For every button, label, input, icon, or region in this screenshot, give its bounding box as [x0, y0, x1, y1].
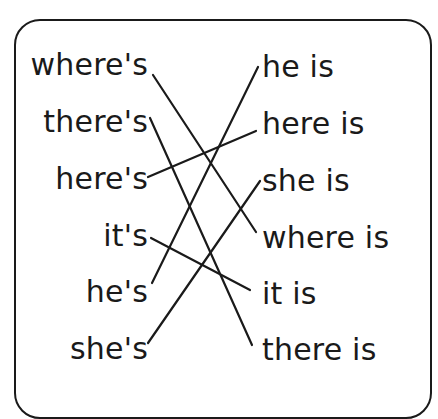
right-word-there-is: there is	[262, 333, 376, 367]
line-here-s	[148, 131, 256, 177]
right-word-he-is: he is	[262, 50, 334, 84]
line-there-s	[150, 118, 252, 345]
right-word-she-is: she is	[262, 164, 350, 198]
left-word-here-s: here's	[55, 162, 148, 196]
line-it-s	[151, 238, 250, 290]
left-word-it-s: it's	[103, 219, 148, 253]
left-word-there-s: there's	[43, 105, 148, 139]
line-she-s	[148, 181, 260, 343]
right-word-here-is: here is	[262, 107, 365, 141]
right-word-it-is: it is	[262, 277, 317, 311]
right-word-where-is: where is	[262, 221, 389, 255]
left-word-he-s: he's	[86, 275, 148, 309]
left-word-she-s: she's	[70, 332, 148, 366]
left-word-where-s: where's	[31, 48, 148, 82]
